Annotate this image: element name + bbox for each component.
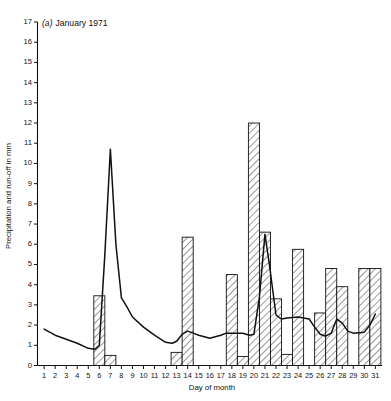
bar: [370, 269, 381, 366]
x-tick-label: 13: [173, 371, 181, 380]
precipitation-runoff-chart: (a)January 1971 Precipitation and run-of…: [0, 0, 391, 401]
x-tick-label: 20: [250, 371, 258, 380]
x-axis-label-text: Day of month: [189, 383, 235, 392]
x-tick-label: 7: [108, 371, 112, 380]
y-tick-label: 13: [24, 98, 32, 107]
y-axis-label-text: Precipitation and run-off in mm: [4, 143, 13, 249]
title-prefix: (a): [42, 18, 53, 28]
x-tick-label: 3: [64, 371, 68, 380]
x-tick-label: 6: [97, 371, 101, 380]
title-main: January 1971: [56, 18, 108, 28]
precipitation-bars: [94, 123, 381, 365]
y-tick-label: 1: [28, 340, 32, 349]
x-tick-label: 14: [184, 371, 192, 380]
svg-text:(a)January 1971: (a)January 1971: [42, 18, 108, 28]
x-tick-label: 11: [151, 371, 159, 380]
y-tick-label: 10: [24, 158, 32, 167]
y-tick-label: 3: [28, 300, 32, 309]
x-tick-label: 18: [228, 371, 236, 380]
x-axis: 1234567891011121314151617181920212223242…: [38, 366, 383, 381]
x-tick-label: 27: [327, 371, 335, 380]
y-tick-label: 0: [28, 361, 32, 370]
x-tick-label: 23: [283, 371, 291, 380]
x-tick-label: 5: [86, 371, 90, 380]
bar: [315, 313, 326, 366]
x-tick-label: 31: [371, 371, 379, 380]
bar: [326, 269, 337, 366]
y-tick-label: 8: [28, 199, 32, 208]
x-tick-label: 1: [42, 371, 46, 380]
x-tick-label: 15: [195, 371, 203, 380]
y-tick-label: 11: [24, 138, 32, 147]
chart-title: (a)January 1971: [42, 18, 108, 28]
x-tick-label: 22: [272, 371, 280, 380]
y-tick-label: 16: [24, 37, 32, 46]
bar: [282, 354, 293, 365]
bar: [171, 352, 182, 365]
x-tick-label: 21: [261, 371, 269, 380]
x-tick-label: 8: [119, 371, 123, 380]
y-tick-label: 9: [28, 179, 32, 188]
y-tick-label: 7: [28, 219, 32, 228]
bar: [105, 355, 116, 365]
y-tick-label: 2: [28, 320, 32, 329]
y-tick-label: 17: [24, 17, 32, 26]
x-tick-label: 29: [349, 371, 357, 380]
bar: [259, 232, 270, 365]
bar: [226, 275, 237, 366]
x-tick-label: 2: [53, 371, 57, 380]
x-axis-label: Day of month: [189, 383, 235, 392]
bar: [359, 269, 370, 366]
y-axis: 01234567891011121314151617: [24, 17, 38, 370]
x-tick-label: 17: [217, 371, 225, 380]
x-tick-label: 19: [239, 371, 247, 380]
x-tick-label: 9: [130, 371, 134, 380]
y-tick-label: 14: [24, 78, 32, 87]
bar: [94, 296, 105, 366]
chart-canvas: (a)January 1971 Precipitation and run-of…: [0, 0, 391, 401]
y-tick-label: 15: [24, 57, 32, 66]
x-tick-label: 10: [139, 371, 147, 380]
x-tick-label: 4: [75, 371, 79, 380]
bar: [270, 299, 281, 366]
y-tick-label: 12: [24, 118, 32, 127]
y-tick-label: 5: [28, 259, 32, 268]
y-tick-label: 4: [28, 280, 32, 289]
x-tick-label: 25: [305, 371, 313, 380]
x-tick-label: 30: [360, 371, 368, 380]
y-axis-label: Precipitation and run-off in mm: [4, 143, 13, 249]
x-tick-label: 26: [316, 371, 324, 380]
x-tick-label: 12: [161, 371, 169, 380]
bar: [237, 356, 248, 365]
x-tick-label: 24: [294, 371, 302, 380]
x-tick-label: 28: [338, 371, 346, 380]
bar: [182, 237, 193, 365]
y-tick-label: 6: [28, 239, 32, 248]
x-tick-label: 16: [206, 371, 214, 380]
bar: [337, 287, 348, 366]
bar: [293, 249, 304, 365]
